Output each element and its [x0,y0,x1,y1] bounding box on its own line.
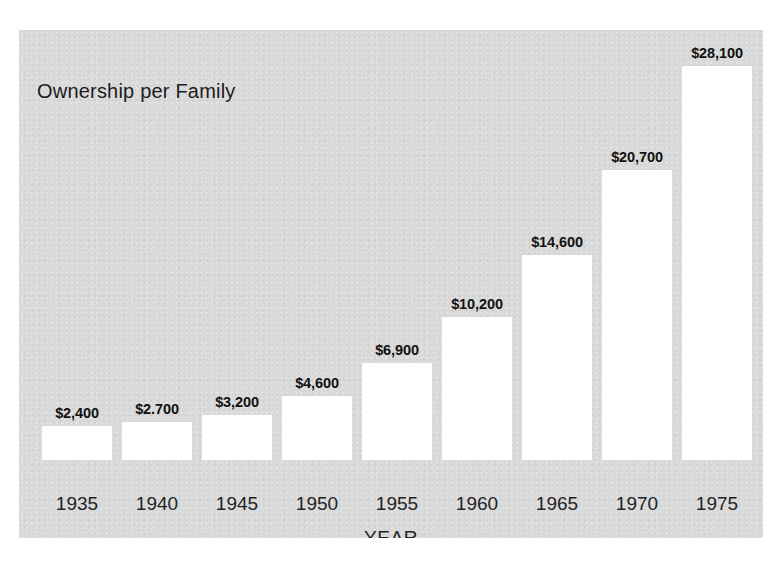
bar-group: $10,200 [442,317,512,460]
bar-group: $20,700 [602,170,672,460]
bar-value-label-1965: $14,600 [531,234,583,250]
bar-group: $2.700 [122,422,192,460]
bar-1970 [602,170,672,460]
year-label-1955: 1955 [362,493,432,515]
chart-panel: Ownership per Family $2,400$2.700$3,200$… [19,30,763,538]
bar-group: $3,200 [202,415,272,460]
bar-1945 [202,415,272,460]
bar-value-label-1940: $2.700 [135,401,179,417]
bar-value-label-1975: $28,100 [691,45,743,61]
bar-value-label-1960: $10,200 [451,296,503,312]
year-label-1970: 1970 [602,493,672,515]
year-label-1965: 1965 [522,493,592,515]
year-label-1940: 1940 [122,493,192,515]
bar-value-label-1935: $2,400 [55,405,99,421]
bar-1940 [122,422,192,460]
bar-1965 [522,255,592,460]
x-axis-title: YEAR [19,527,763,538]
bar-1955 [362,363,432,460]
bar-1960 [442,317,512,460]
bar-1950 [282,396,352,460]
bar-1975 [682,66,752,460]
bar-value-label-1945: $3,200 [215,394,259,410]
year-label-1935: 1935 [42,493,112,515]
plot-area: $2,400$2.700$3,200$4,600$6,900$10,200$14… [19,30,763,460]
bar-value-label-1955: $6,900 [375,342,419,358]
year-label-1950: 1950 [282,493,352,515]
year-label-1960: 1960 [442,493,512,515]
bar-group: $14,600 [522,255,592,460]
bar-value-label-1970: $20,700 [611,149,663,165]
bar-group: $2,400 [42,426,112,460]
bar-group: $4,600 [282,396,352,460]
bar-value-label-1950: $4,600 [295,375,339,391]
bar-group: $6,900 [362,363,432,460]
year-label-1975: 1975 [682,493,752,515]
bar-1935 [42,426,112,460]
figure: Ownership per Family $2,400$2.700$3,200$… [0,0,783,573]
bar-group: $28,100 [682,66,752,460]
year-label-1945: 1945 [202,493,272,515]
